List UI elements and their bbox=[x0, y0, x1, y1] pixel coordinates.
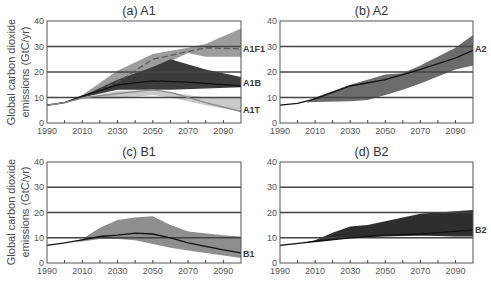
y-tick-label: 0 bbox=[39, 118, 44, 128]
y-tick-label: 0 bbox=[272, 118, 277, 128]
x-tick-label: 2030 bbox=[108, 126, 128, 136]
ylabel-bottom-line2: emissions (GtC/yr) bbox=[19, 166, 31, 257]
x-tick-label: 2070 bbox=[410, 126, 430, 136]
panel-c: B1199020102030205020702090010203040(c) B… bbox=[34, 145, 255, 276]
x-tick-label: 2050 bbox=[375, 266, 395, 276]
series-label-a1f1: A1F1 bbox=[243, 44, 265, 54]
y-tick-label: 0 bbox=[39, 258, 44, 268]
x-tick-label: 2090 bbox=[213, 266, 233, 276]
x-tick-label: 2050 bbox=[375, 126, 395, 136]
x-tick-label: 2010 bbox=[72, 126, 92, 136]
y-tick-label: 40 bbox=[34, 157, 44, 167]
chart-canvas: Global carbon dioxide emissions (GtC/yr)… bbox=[0, 0, 491, 282]
y-tick-label: 30 bbox=[34, 42, 44, 52]
panel-title: (d) B2 bbox=[354, 145, 388, 159]
ylabel-bottom-line1: Global carbon dioxide bbox=[5, 159, 17, 265]
x-tick-label: 2030 bbox=[340, 266, 360, 276]
panel-d: B2199020102030205020702090010203040(d) B… bbox=[267, 145, 487, 276]
y-tick-label: 10 bbox=[34, 93, 44, 103]
y-tick-label: 40 bbox=[267, 16, 277, 26]
series-label-a1t: A1T bbox=[243, 105, 261, 115]
x-tick-label: 2090 bbox=[213, 126, 233, 136]
panels-group: A1F1A1BA1T199020102030205020702090010203… bbox=[34, 4, 487, 276]
x-tick-label: 2090 bbox=[445, 126, 465, 136]
panel-title: (b) A2 bbox=[355, 4, 388, 18]
y-tick-label: 20 bbox=[267, 208, 277, 218]
panel-a: A1F1A1BA1T199020102030205020702090010203… bbox=[34, 4, 265, 136]
y-tick-label: 40 bbox=[34, 16, 44, 26]
y-tick-label: 20 bbox=[34, 67, 44, 77]
y-tick-label: 40 bbox=[267, 157, 277, 167]
ylabel-top-line1: Global carbon dioxide bbox=[5, 19, 17, 125]
y-tick-label: 30 bbox=[267, 42, 277, 52]
x-tick-label: 2070 bbox=[178, 126, 198, 136]
y-tick-label: 20 bbox=[34, 208, 44, 218]
panel-title: (c) B1 bbox=[122, 145, 155, 159]
y-tick-label: 30 bbox=[267, 182, 277, 192]
series-label-a2: A2 bbox=[475, 44, 487, 54]
x-tick-label: 2090 bbox=[445, 266, 465, 276]
x-tick-label: 2010 bbox=[305, 266, 325, 276]
panel-b: A2199020102030205020702090010203040(b) A… bbox=[267, 4, 487, 136]
x-tick-label: 2030 bbox=[340, 126, 360, 136]
ylabel-top-line2: emissions (GtC/yr) bbox=[19, 26, 31, 117]
x-tick-label: 2050 bbox=[143, 266, 163, 276]
y-tick-label: 10 bbox=[267, 93, 277, 103]
x-tick-label: 2030 bbox=[108, 266, 128, 276]
x-tick-label: 2070 bbox=[410, 266, 430, 276]
y-tick-label: 20 bbox=[267, 67, 277, 77]
x-tick-label: 2010 bbox=[305, 126, 325, 136]
series-label-a1b: A1B bbox=[243, 78, 262, 88]
y-tick-label: 30 bbox=[34, 182, 44, 192]
y-tick-label: 10 bbox=[267, 233, 277, 243]
x-tick-label: 2010 bbox=[72, 266, 92, 276]
x-tick-label: 2070 bbox=[178, 266, 198, 276]
y-tick-label: 10 bbox=[34, 233, 44, 243]
emissions-figure: Global carbon dioxide emissions (GtC/yr)… bbox=[0, 0, 491, 282]
series-label-b2: B2 bbox=[475, 225, 487, 235]
x-tick-label: 2050 bbox=[143, 126, 163, 136]
y-tick-label: 0 bbox=[272, 258, 277, 268]
panel-title: (a) A1 bbox=[122, 4, 155, 18]
series-label-b1: B1 bbox=[243, 249, 255, 259]
